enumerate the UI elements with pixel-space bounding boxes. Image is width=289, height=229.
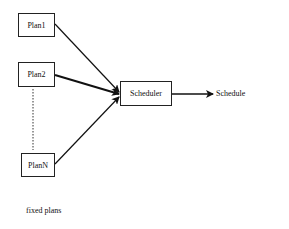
edge-planN-scheduler (55, 97, 119, 164)
plan2-box: Plan2 (18, 62, 55, 87)
scheduler-label: Scheduler (130, 89, 162, 98)
plan1-label: Plan1 (27, 21, 45, 30)
edge-plan1-scheduler (55, 24, 119, 92)
planN-box: PlanN (21, 153, 55, 177)
plan2-label: Plan2 (27, 70, 45, 79)
planN-label: PlanN (28, 161, 48, 170)
schedule-output-label: Schedule (216, 89, 245, 98)
edge-plan2-scheduler (55, 75, 119, 94)
caption: fixed plans (26, 206, 61, 215)
scheduler-box: Scheduler (120, 81, 172, 106)
plan1-box: Plan1 (18, 13, 55, 37)
